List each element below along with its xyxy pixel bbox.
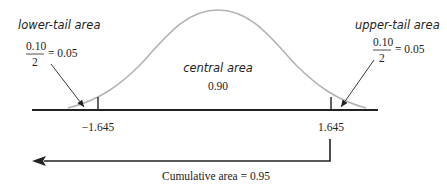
upper-tail-pointer-arrow [341,60,374,107]
bell-curve [68,10,366,108]
lower-tail-denominator: 2 [32,56,38,68]
left-critical-value: −1.645 [82,121,115,133]
central-area-title: central area [183,61,253,75]
lower-tail-title: lower-tail area [18,18,100,32]
right-critical-value: 1.645 [318,121,344,133]
lower-tail-pointer-arrow [51,64,84,107]
central-area-value: 0.90 [208,80,228,92]
upper-tail-title: upper-tail area [355,18,440,32]
upper-tail-denominator: 2 [379,52,385,64]
normal-distribution-diagram: lower-tail area 0.10 2 = 0.05 upper-tail… [0,0,447,190]
cumulative-arrowhead-icon [32,156,46,166]
lower-tail-numerator: 0.10 [26,40,46,52]
lower-tail-result: = 0.05 [48,47,78,59]
cumulative-area-label: Cumulative area = 0.95 [162,170,270,182]
upper-tail-result: = 0.05 [395,43,425,55]
cumulative-area-arrow [44,139,330,161]
upper-tail-numerator: 0.10 [373,36,393,48]
